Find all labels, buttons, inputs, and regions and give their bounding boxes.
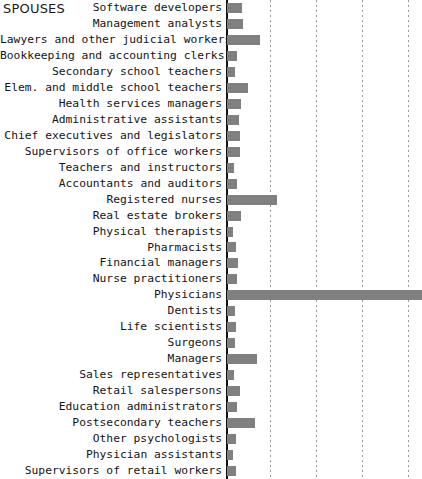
category-label: Supervisors of office workers xyxy=(0,144,226,160)
chart-row: Retail salespersons xyxy=(0,383,421,399)
category-label: Surgeons xyxy=(0,335,226,351)
chart-row: Management analysts xyxy=(0,16,421,32)
chart-row: Supervisors of office workers xyxy=(0,144,421,160)
category-label: Education administrators xyxy=(0,399,226,415)
bar xyxy=(227,115,239,125)
chart-row: Physician assistants xyxy=(0,447,421,463)
chart-row: Supervisors of retail workers xyxy=(0,463,421,479)
category-label: Other psychologists xyxy=(0,431,226,447)
chart-row: Managers xyxy=(0,351,421,367)
chart-row: Life scientists xyxy=(0,319,421,335)
category-label: Supervisors of retail workers xyxy=(0,463,226,479)
chart-row: Registered nurses xyxy=(0,192,421,208)
bar xyxy=(227,163,234,173)
bar xyxy=(227,179,237,189)
bar xyxy=(227,402,237,412)
chart-row: Teachers and instructors xyxy=(0,160,421,176)
bar xyxy=(227,466,236,476)
category-label: Physical therapists xyxy=(0,224,226,240)
chart-row: Pharmacists xyxy=(0,240,421,256)
category-label: Elem. and middle school teachers xyxy=(0,80,226,96)
category-label: Software developers xyxy=(0,0,226,16)
bar xyxy=(227,227,233,237)
category-label: Teachers and instructors xyxy=(0,160,226,176)
category-label: Administrative assistants xyxy=(0,112,226,128)
bar xyxy=(227,434,236,444)
bar xyxy=(227,274,237,284)
category-label: Life scientists xyxy=(0,319,226,335)
chart-row: Nurse practitioners xyxy=(0,271,421,287)
category-label: Retail salespersons xyxy=(0,383,226,399)
category-label: Dentists xyxy=(0,303,226,319)
bar xyxy=(227,147,240,157)
bar xyxy=(227,19,243,29)
bar xyxy=(227,258,238,268)
bar xyxy=(227,83,248,93)
category-label: Bookkeeping and accounting clerks xyxy=(0,48,226,64)
bar xyxy=(227,354,257,364)
chart-row: Secondary school teachers xyxy=(0,64,421,80)
category-label: Secondary school teachers xyxy=(0,64,226,80)
bar xyxy=(227,370,234,380)
bar xyxy=(227,51,237,61)
category-label: Physicians xyxy=(0,287,226,303)
chart-row: Physical therapists xyxy=(0,224,421,240)
bar xyxy=(227,99,241,109)
bar xyxy=(227,386,240,396)
chart-row: Lawyers and other judicial workers xyxy=(0,32,421,48)
category-label: Managers xyxy=(0,351,226,367)
chart-row: Other psychologists xyxy=(0,431,421,447)
chart-row: Health services managers xyxy=(0,96,421,112)
bar xyxy=(227,338,235,348)
chart-row: Chief executives and legislators xyxy=(0,128,421,144)
bar xyxy=(227,211,241,221)
chart-row: Elem. and middle school teachers xyxy=(0,80,421,96)
category-label: Nurse practitioners xyxy=(0,271,226,287)
category-label: Real estate brokers xyxy=(0,208,226,224)
bar xyxy=(227,131,240,141)
chart-row: Postsecondary teachers xyxy=(0,415,421,431)
category-label: Management analysts xyxy=(0,16,226,32)
category-label: Accountants and auditors xyxy=(0,176,226,192)
bar xyxy=(227,3,242,13)
chart-row: Education administrators xyxy=(0,399,421,415)
chart-row: Physicians xyxy=(0,287,421,303)
category-label: Lawyers and other judicial workers xyxy=(0,32,226,48)
bar xyxy=(227,35,260,45)
chart-row: Accountants and auditors xyxy=(0,176,421,192)
chart-row: Sales representatives xyxy=(0,367,421,383)
category-label: Chief executives and legislators xyxy=(0,128,226,144)
bar xyxy=(227,290,422,300)
chart-row: Software developers xyxy=(0,0,421,16)
chart-row: Dentists xyxy=(0,303,421,319)
bar xyxy=(227,306,235,316)
bar xyxy=(227,195,277,205)
chart-row: Surgeons xyxy=(0,335,421,351)
category-label: Physician assistants xyxy=(0,447,226,463)
category-label: Pharmacists xyxy=(0,240,226,256)
chart-row: Financial managers xyxy=(0,255,421,271)
bar xyxy=(227,450,233,460)
bar xyxy=(227,322,236,332)
category-label: Postsecondary teachers xyxy=(0,415,226,431)
bar xyxy=(227,67,235,77)
category-label: Registered nurses xyxy=(0,192,226,208)
chart-row: Administrative assistants xyxy=(0,112,421,128)
category-label: Health services managers xyxy=(0,96,226,112)
category-label: Financial managers xyxy=(0,255,226,271)
category-label: Sales representatives xyxy=(0,367,226,383)
bar xyxy=(227,242,236,252)
chart-row: Real estate brokers xyxy=(0,208,421,224)
bar xyxy=(227,418,255,428)
chart-row: Bookkeeping and accounting clerks xyxy=(0,48,421,64)
